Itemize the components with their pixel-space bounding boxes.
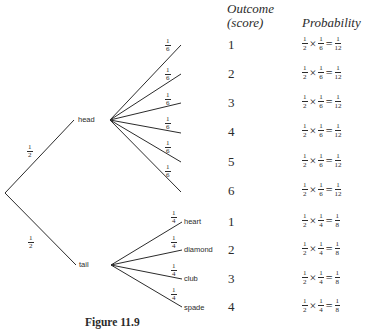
- die-edge-probability-6: 16: [165, 161, 171, 179]
- outcome-value: 3: [228, 96, 235, 109]
- outcome-value: 2: [228, 243, 235, 256]
- outcome-value: 3: [228, 272, 235, 285]
- outcome-value: 4: [228, 125, 235, 138]
- probability-expression: 12 × 14 = 18: [302, 298, 340, 314]
- probability-expression: 12 × 16 = 112: [302, 36, 342, 52]
- outcome-value: 1: [228, 215, 235, 228]
- outcome-header-line2: (score): [227, 16, 263, 29]
- suit-edge-probability-spade: 14: [171, 284, 177, 302]
- probability-expression: 12 × 16 = 112: [302, 153, 342, 169]
- node-tail-label: tail: [79, 261, 89, 269]
- suit-edge-probability-diamond: 14: [171, 232, 177, 250]
- leaf-heart-label: heart: [184, 218, 201, 226]
- outcome-value: 4: [228, 300, 235, 313]
- branch-head-1: [110, 45, 181, 120]
- die-edge-probability-2: 16: [165, 64, 171, 82]
- branch-tail: [5, 193, 76, 265]
- outcome-value: 6: [228, 184, 235, 197]
- outcome-value: 2: [228, 67, 235, 80]
- die-edge-probability-3: 16: [165, 89, 171, 107]
- probability-tree-figure: Outcome (score) Probability 12 12 head t…: [0, 0, 373, 332]
- probability-expression: 12 × 14 = 18: [302, 213, 340, 229]
- node-head-label: head: [78, 116, 95, 124]
- probability-expression: 12 × 16 = 112: [302, 94, 342, 110]
- leaf-diamond-label: diamond: [184, 246, 213, 254]
- die-edge-probability-1: 16: [165, 35, 171, 53]
- probability-expression: 12 × 16 = 112: [302, 123, 342, 139]
- head-edge-probability: 12: [27, 141, 33, 159]
- probability-expression: 12 × 14 = 18: [302, 241, 340, 257]
- probability-header: Probability: [302, 16, 361, 29]
- probability-expression: 12 × 16 = 112: [302, 182, 342, 198]
- probability-expression: 12 × 14 = 18: [302, 270, 340, 286]
- figure-caption: Figure 11.9: [85, 316, 140, 328]
- suit-edge-probability-heart: 14: [171, 207, 177, 225]
- leaf-club-label: club: [184, 275, 198, 283]
- outcome-value: 1: [228, 38, 235, 51]
- outcome-header-line1: Outcome: [227, 2, 274, 15]
- die-edge-probability-5: 16: [165, 137, 171, 155]
- die-edge-probability-4: 16: [165, 113, 171, 131]
- suit-edge-probability-club: 14: [171, 260, 177, 278]
- leaf-spade-label: spade: [184, 304, 204, 312]
- branch-head: [5, 120, 74, 193]
- outcome-value: 5: [228, 155, 235, 168]
- probability-expression: 12 × 16 = 112: [302, 65, 342, 81]
- tail-edge-probability: 12: [28, 232, 34, 250]
